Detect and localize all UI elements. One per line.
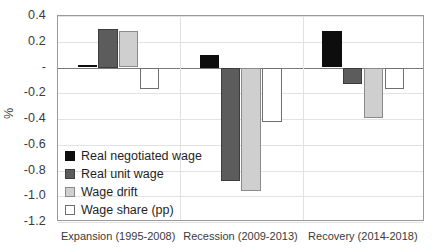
y-axis-title: % — [3, 108, 16, 119]
bar[interactable] — [322, 31, 341, 67]
y-tick-label: 0.2 — [0, 35, 52, 48]
y-axis-tick-labels: 0.40.2--0.2-0.4-0.6-0.8-1.0-1.2 — [0, 0, 52, 252]
y-tick-label: -0.8 — [0, 164, 52, 177]
legend-swatch-icon — [65, 169, 75, 179]
bar[interactable] — [221, 68, 240, 181]
x-category-label: Recovery (2014-2018) — [302, 230, 424, 248]
y-tick-label: -1.2 — [0, 215, 52, 228]
gridline — [58, 222, 423, 223]
legend-swatch-icon — [65, 187, 75, 197]
x-axis-category-labels: Expansion (1995-2008)Recession (2009-201… — [57, 230, 424, 248]
legend-label: Real unit wage — [81, 168, 164, 181]
x-category-label: Expansion (1995-2008) — [57, 230, 179, 248]
chart-container: 0.40.2--0.2-0.4-0.6-0.8-1.0-1.2 % Real n… — [0, 0, 436, 252]
legend-item[interactable]: Wage share (pp) — [65, 202, 202, 218]
legend-label: Wage drift — [81, 186, 138, 199]
bar[interactable] — [385, 68, 404, 90]
y-tick-label: -1.0 — [0, 189, 52, 202]
bar[interactable] — [343, 68, 362, 85]
legend-item[interactable]: Real unit wage — [65, 166, 202, 182]
legend-item[interactable]: Real negotiated wage — [65, 148, 202, 164]
legend-label: Wage share (pp) — [81, 204, 174, 217]
chart-legend: Real negotiated wageReal unit wageWage d… — [65, 148, 202, 218]
bar[interactable] — [119, 31, 138, 67]
bar-group — [303, 16, 425, 220]
legend-label: Real negotiated wage — [81, 150, 202, 163]
bar[interactable] — [78, 65, 97, 68]
bar[interactable] — [98, 29, 117, 68]
bar[interactable] — [200, 55, 219, 68]
legend-swatch-icon — [65, 205, 75, 215]
bar[interactable] — [262, 68, 281, 122]
bar[interactable] — [364, 68, 383, 118]
bar[interactable] — [241, 68, 260, 192]
legend-item[interactable]: Wage drift — [65, 184, 202, 200]
x-category-label: Recession (2009-2013) — [179, 230, 301, 248]
y-tick-label: -0.2 — [0, 86, 52, 99]
y-tick-label: -0.6 — [0, 138, 52, 151]
y-tick-label: 0.4 — [0, 9, 52, 22]
legend-swatch-icon — [65, 151, 75, 161]
bar[interactable] — [140, 68, 159, 90]
y-tick-label: - — [0, 61, 52, 74]
